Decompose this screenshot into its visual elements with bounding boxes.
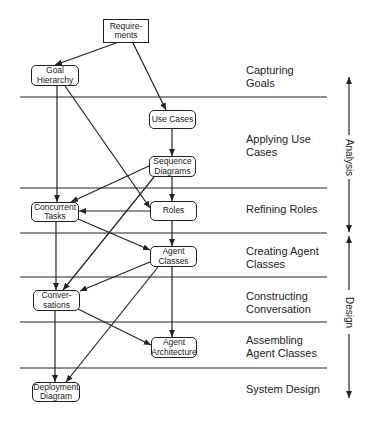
- node-agent-architecture: Agent Architecture: [151, 337, 197, 358]
- phase-label: System Design: [246, 383, 320, 396]
- node-roles: Roles: [150, 201, 197, 221]
- node-sequence-diagrams: Sequence Diagrams: [149, 156, 196, 177]
- node-use-cases: Use Cases: [149, 110, 196, 129]
- edge-conversations-to-agent_architecture: [78, 309, 151, 345]
- edge-requirements-to-use_cases: [133, 43, 166, 110]
- edge-concurrent_tasks-to-agent_classes: [78, 219, 150, 250]
- stage-label-analysis: Analysis: [344, 136, 355, 177]
- node-deployment-diagram: Deployment Diagram: [32, 382, 80, 402]
- edge-goal_hierarchy-to-roles: [65, 86, 150, 208]
- phase-label: Constructing Conversation: [246, 290, 311, 316]
- node-conversations: Conver- sations: [33, 290, 80, 311]
- node-requirements: Require- ments: [103, 19, 149, 43]
- process-diagram: Require- mentsGoal HierarchyUse CasesSeq…: [0, 0, 372, 422]
- edge-requirements-to-goal_hierarchy: [55, 43, 116, 65]
- phase-label: Capturing Goals: [246, 64, 294, 90]
- phase-label: Creating Agent Classes: [246, 245, 319, 271]
- phase-label: Refining Roles: [246, 203, 318, 216]
- edge-agent_classes-to-deployment_diagram: [66, 267, 158, 382]
- stage-label-design: Design: [344, 294, 355, 329]
- edge-sequence_diagrams-to-concurrent_tasks: [71, 166, 149, 202]
- phase-label: Assembling Agent Classes: [246, 334, 317, 360]
- phase-label: Applying Use Cases: [246, 133, 311, 159]
- node-goal-hierarchy: Goal Hierarchy: [31, 65, 79, 86]
- node-concurrent-tasks: Concurrent Tasks: [31, 202, 79, 222]
- node-agent-classes: Agent Classes: [150, 246, 197, 267]
